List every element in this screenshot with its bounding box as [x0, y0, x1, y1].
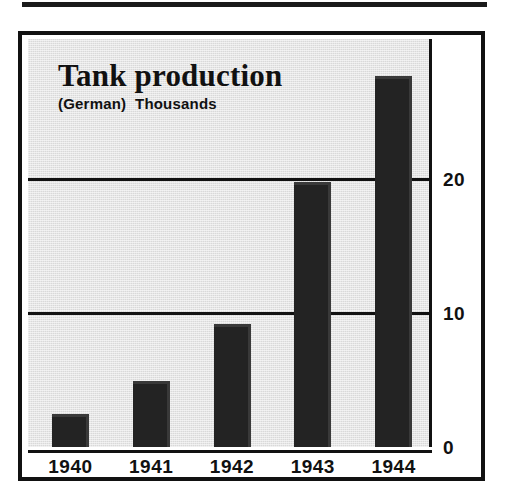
bar-1942 — [214, 324, 251, 447]
chart-subtitle: (German) Thousands — [58, 95, 282, 112]
x-axis-labels: 19401941194219431944 — [28, 450, 432, 477]
page-title: Tank production — [58, 60, 282, 92]
chart-figure: Tank production (German) Thousands 01020… — [18, 31, 485, 481]
x-tick-label-1940: 1940 — [30, 457, 110, 476]
title-block: Tank production (German) Thousands — [58, 60, 282, 112]
bar-1941 — [133, 381, 170, 447]
x-tick-label-1942: 1942 — [192, 457, 272, 476]
bar-1944 — [375, 76, 412, 447]
y-tick-label-0: 0 — [443, 438, 454, 457]
x-tick-label-1944: 1944 — [354, 457, 434, 476]
y-tick-label-10: 10 — [443, 304, 465, 323]
y-tick-label-20: 20 — [443, 170, 465, 189]
y-axis-labels: 01020 — [435, 39, 481, 447]
bar-1943 — [294, 182, 331, 447]
bar-1940 — [52, 414, 89, 447]
plot-area: Tank production (German) Thousands — [28, 39, 432, 447]
x-tick-label-1941: 1941 — [111, 457, 191, 476]
top-divider-rule — [22, 2, 487, 7]
x-tick-label-1943: 1943 — [273, 457, 353, 476]
